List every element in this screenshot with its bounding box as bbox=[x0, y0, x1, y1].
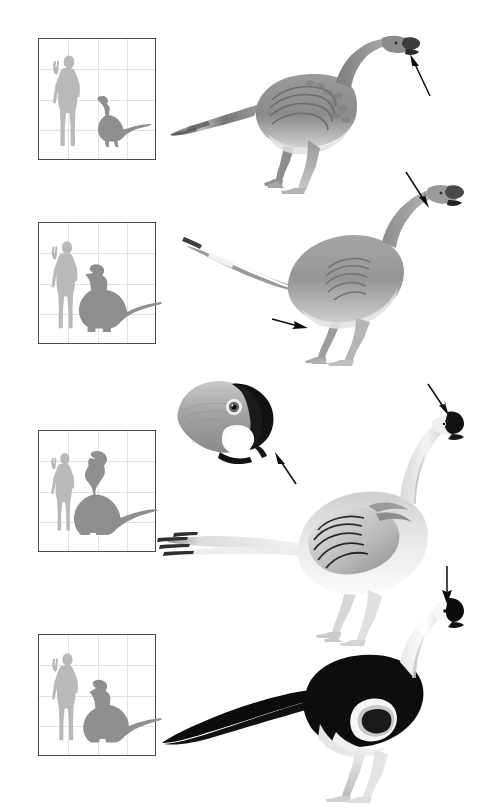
human-silhouette-1 bbox=[51, 53, 85, 149]
oviraptorosaur-restoration-3 bbox=[152, 390, 462, 630]
dino-silhouette-3 bbox=[72, 451, 158, 535]
arrow-to-beak-2 bbox=[400, 168, 442, 214]
dino-silhouette-4 bbox=[82, 679, 162, 743]
arrow-to-flank-2 bbox=[272, 315, 314, 333]
arrow-to-crest-4 bbox=[436, 564, 458, 608]
oviraptorosaur-restoration-1 bbox=[168, 30, 428, 190]
arrow-to-beak-1 bbox=[404, 52, 444, 100]
figure-plate bbox=[0, 0, 486, 808]
dino-silhouette-1 bbox=[88, 93, 154, 149]
oviraptorosaur-restoration-4 bbox=[160, 600, 460, 800]
scale-box-3 bbox=[38, 430, 156, 552]
scale-box-4 bbox=[38, 634, 156, 756]
scale-box-2 bbox=[38, 222, 156, 344]
dino-silhouette-2 bbox=[78, 263, 162, 333]
human-silhouette-4 bbox=[50, 651, 83, 743]
arrow-to-crest-3 bbox=[424, 380, 458, 422]
scale-box-1 bbox=[38, 38, 156, 160]
